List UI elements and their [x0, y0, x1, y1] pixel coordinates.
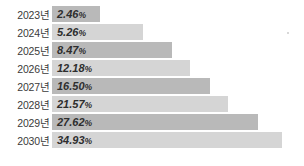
category-label: 2030년	[0, 133, 50, 148]
category-label: 2026년	[0, 61, 50, 76]
value-label: 21.57%	[57, 95, 92, 113]
value-label: 8.47%	[57, 41, 86, 59]
chart-row: 2023년 2.46%	[0, 5, 304, 23]
category-label: 2028년	[0, 97, 50, 112]
plot-area: 2023년 2.46% 2024년 5.26% 2025년 8.47% 2026…	[0, 0, 304, 166]
chart-row: 2024년 5.26%	[0, 23, 304, 41]
chart-row: 2025년 8.47%	[0, 41, 304, 59]
value-label: 16.50%	[57, 77, 92, 95]
artifact-speck	[287, 32, 289, 34]
value-label: 2.46%	[57, 5, 86, 23]
chart-row: 2030년 34.93%	[0, 131, 304, 149]
chart-row: 2027년 16.50%	[0, 77, 304, 95]
category-label: 2029년	[0, 115, 50, 130]
bar-chart: 2023년 2.46% 2024년 5.26% 2025년 8.47% 2026…	[0, 0, 304, 166]
value-label: 5.26%	[57, 23, 86, 41]
category-label: 2025년	[0, 43, 50, 58]
chart-row: 2029년 27.62%	[0, 113, 304, 131]
category-label: 2023년	[0, 7, 50, 22]
value-label: 34.93%	[57, 131, 92, 149]
value-label: 12.18%	[57, 59, 92, 77]
chart-row: 2026년 12.18%	[0, 59, 304, 77]
category-label: 2027년	[0, 79, 50, 94]
category-label: 2024년	[0, 25, 50, 40]
value-label: 27.62%	[57, 113, 92, 131]
chart-row: 2028년 21.57%	[0, 95, 304, 113]
